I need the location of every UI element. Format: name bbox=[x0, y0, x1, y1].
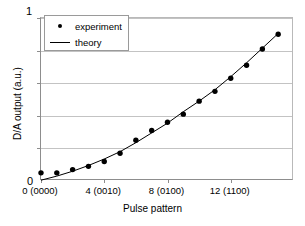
x-axis-title: Pulse pattern bbox=[0, 203, 305, 214]
dot-marker-icon bbox=[45, 24, 75, 28]
data-point bbox=[165, 120, 170, 125]
data-point bbox=[275, 32, 280, 37]
x-tick-label: 12 (1100) bbox=[210, 185, 250, 196]
data-point bbox=[38, 170, 43, 175]
data-point bbox=[149, 128, 154, 133]
legend-label-experiment: experiment bbox=[75, 21, 122, 32]
data-point bbox=[244, 63, 249, 68]
data-point bbox=[117, 151, 122, 156]
legend-item-experiment: experiment bbox=[45, 18, 128, 34]
theory-line bbox=[41, 33, 278, 180]
legend-label-theory: theory bbox=[75, 37, 101, 48]
y-axis-max-label: 1 bbox=[26, 6, 32, 17]
data-point bbox=[260, 46, 265, 51]
data-point bbox=[70, 167, 75, 172]
chart-figure: 1 0 D/A output (a.u.) experiment bbox=[0, 0, 305, 226]
x-tick-label: 0 (0000) bbox=[22, 185, 57, 196]
legend-box: experiment theory bbox=[44, 15, 129, 51]
y-axis-title: D/A output (a.u.) bbox=[12, 34, 23, 174]
data-point bbox=[228, 76, 233, 81]
data-point bbox=[86, 164, 91, 169]
data-point bbox=[212, 89, 217, 94]
plot-area: experiment theory bbox=[40, 17, 293, 180]
data-point bbox=[196, 98, 201, 103]
data-point bbox=[181, 111, 186, 116]
data-point bbox=[54, 170, 59, 175]
data-point bbox=[102, 159, 107, 164]
x-tick-label: 4 (0010) bbox=[86, 185, 121, 196]
x-tick-label: 8 (0100) bbox=[149, 185, 184, 196]
legend-item-theory: theory bbox=[45, 34, 128, 50]
experiment-points bbox=[38, 32, 281, 176]
data-point bbox=[133, 138, 138, 143]
line-marker-icon bbox=[45, 42, 75, 43]
